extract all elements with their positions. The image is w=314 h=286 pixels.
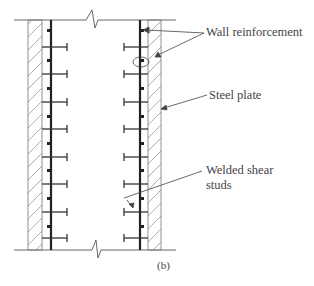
steel-plate-leader	[161, 95, 207, 110]
welded-shear-studs-leader	[124, 171, 202, 208]
subfigure-label: (b)	[157, 258, 170, 272]
right-shear-studs	[124, 43, 148, 242]
left-shear-studs	[42, 43, 67, 242]
wall-reinforcement-label: Wall reinforcement	[206, 25, 303, 39]
welded-shear-studs-label-line1: Welded shear	[206, 163, 273, 177]
steel-concrete-wall-section	[0, 0, 314, 286]
welded-shear-studs-label-line2: studs	[206, 178, 232, 192]
steel-plate-label: Steel plate	[209, 88, 261, 102]
left-steel-plate	[28, 20, 42, 250]
